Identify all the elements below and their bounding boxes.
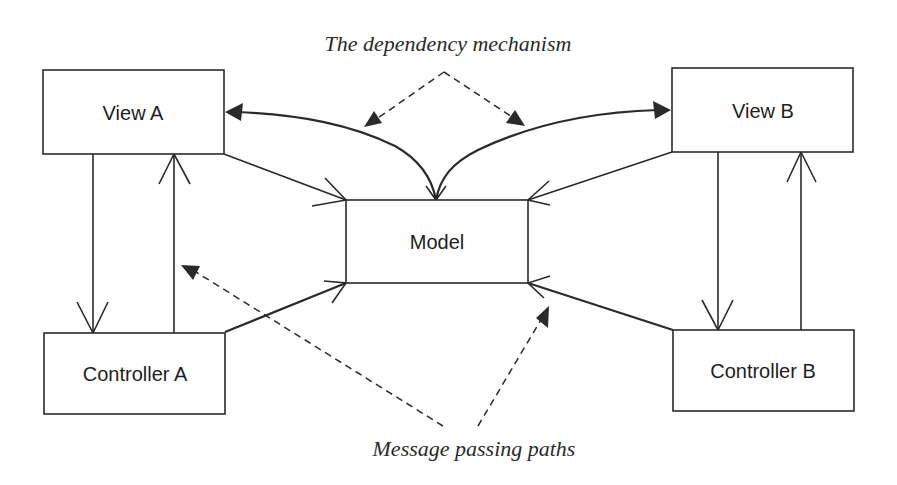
arrow-controller-a-to-model (225, 281, 346, 332)
dependency-arrow-to-view-b (436, 101, 671, 200)
node-model[interactable]: Model (346, 200, 528, 283)
model-label: Model (410, 231, 464, 253)
arrow-view-a-to-controller-a (77, 154, 108, 333)
arrow-view-b-to-model (528, 152, 672, 205)
dependency-caption: The dependency mechanism (325, 31, 572, 56)
arrow-controller-b-to-model (528, 276, 673, 330)
view-b-label: View B (732, 100, 794, 122)
node-controller-a[interactable]: Controller A (44, 333, 225, 414)
node-view-a[interactable]: View A (43, 70, 224, 154)
arrow-controller-a-to-view-a (159, 154, 190, 333)
arrow-view-b-to-controller-b (702, 152, 733, 330)
dependency-pointer-right (444, 72, 525, 126)
controller-a-label: Controller A (83, 363, 188, 385)
message-pointer-right (478, 306, 549, 426)
node-controller-b[interactable]: Controller B (673, 330, 854, 411)
node-view-b[interactable]: View B (672, 68, 853, 152)
message-passing-caption: Message passing paths (372, 436, 576, 461)
mvc-diagram: The dependency mechanism Message passing… (0, 0, 897, 485)
view-a-label: View A (103, 102, 164, 124)
controller-b-label: Controller B (710, 360, 816, 382)
dependency-arrow-to-view-a (225, 103, 436, 200)
arrow-view-a-to-model (224, 154, 346, 206)
arrow-controller-b-to-view-b (787, 152, 816, 330)
dependency-pointer-left (364, 72, 444, 127)
